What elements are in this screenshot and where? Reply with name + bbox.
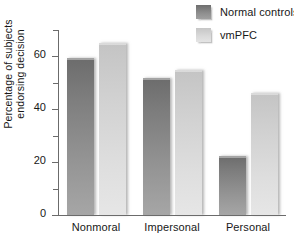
legend-label-normal-controls: Normal controls (220, 6, 294, 18)
legend-swatch-icon-normal-controls (196, 5, 211, 19)
bar-top-highlight (219, 156, 246, 158)
bar-top-highlight (175, 70, 202, 72)
y-axis-title-line-1: Percentage of subjects (2, 0, 14, 154)
y-tick-label-40: 40 (0, 101, 46, 113)
bar-impersonal-normal-controls (143, 78, 170, 215)
bar-nonmoral-vmpfc (99, 43, 126, 215)
x-label-personal: Personal (210, 221, 286, 233)
bar-personal-vmpfc (251, 93, 278, 215)
y-tick-label-60: 60 (0, 48, 46, 60)
bar-top-highlight (143, 78, 170, 80)
y-axis-title-line-2: endorsing decision (14, 0, 26, 154)
bar-top-highlight (99, 43, 126, 45)
x-label-nonmoral: Nonmoral (58, 221, 134, 233)
bar-top-highlight (251, 93, 278, 95)
plot-area (58, 30, 286, 215)
y-tick-0 (52, 215, 58, 216)
y-axis-title: Percentage of subjects endorsing decisio… (2, 0, 26, 154)
bar-nonmoral-normal-controls (67, 58, 94, 215)
x-label-impersonal: Impersonal (134, 221, 210, 233)
bar-top-highlight (67, 58, 94, 60)
bar-chart: Normal controls vmPFC Percentage of subj… (0, 0, 294, 245)
bar-personal-normal-controls (219, 156, 246, 215)
bar-impersonal-vmpfc (175, 70, 202, 215)
y-tick-label-20: 20 (0, 154, 46, 166)
x-axis-line (58, 215, 286, 216)
y-tick-label-0: 0 (0, 207, 46, 219)
legend-item-normal-controls: Normal controls (196, 2, 294, 21)
